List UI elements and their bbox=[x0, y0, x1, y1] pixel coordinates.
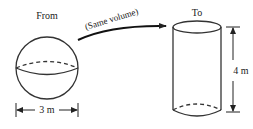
cylinder-height-label: 4 m bbox=[233, 65, 249, 76]
to-label: To bbox=[192, 7, 202, 18]
from-label: From bbox=[36, 10, 58, 21]
cylinder bbox=[173, 21, 221, 116]
sphere bbox=[16, 37, 78, 99]
sphere-diameter-label: 3 m bbox=[39, 104, 55, 115]
diagram: From 3 m (Same volume) To bbox=[0, 0, 253, 129]
